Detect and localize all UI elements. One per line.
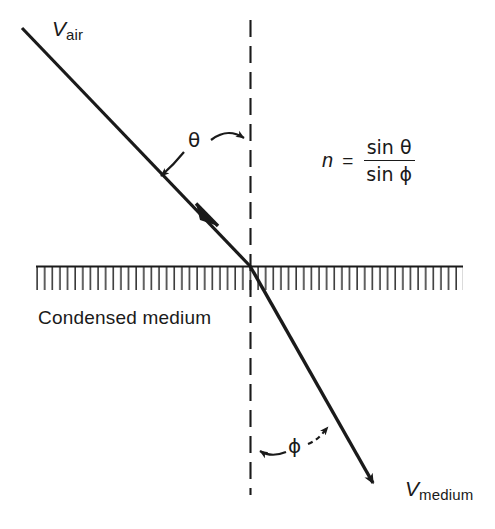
theta-arrows: [161, 133, 244, 176]
formula-fraction: sin θ sin ϕ: [363, 136, 415, 185]
label-angle-phi: ϕ: [288, 436, 301, 456]
formula-numerator: sin θ: [364, 136, 415, 161]
formula-variable: n: [322, 149, 333, 172]
v-air-symbol: V: [52, 17, 66, 40]
label-angle-theta: θ: [188, 130, 200, 150]
refraction-diagram: Vair Vmedium Condensed medium θ ϕ n = si…: [0, 0, 495, 529]
incident-ray: [22, 28, 250, 266]
formula-equals: =: [342, 150, 353, 172]
refracted-ray: [250, 266, 373, 483]
label-v-air: Vair: [52, 18, 83, 39]
snells-law-formula: n = sin θ sin ϕ: [322, 136, 415, 185]
label-v-medium: Vmedium: [405, 478, 474, 499]
diagram-canvas: [0, 0, 495, 529]
v-medium-subscript: medium: [419, 486, 474, 503]
v-air-subscript: air: [66, 26, 83, 43]
label-condensed-medium: Condensed medium: [38, 308, 211, 327]
formula-denominator: sin ϕ: [363, 161, 415, 185]
v-medium-symbol: V: [405, 477, 419, 500]
